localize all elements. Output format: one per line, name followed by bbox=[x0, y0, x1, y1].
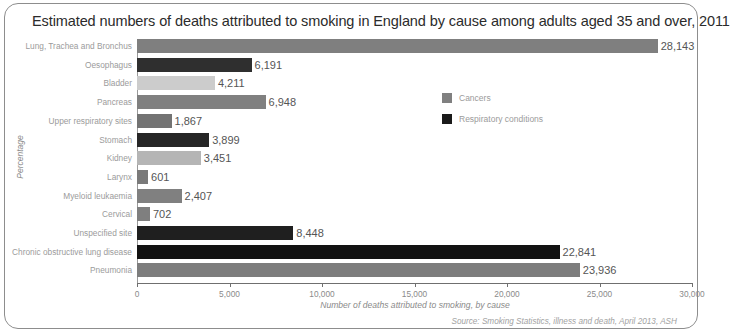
bar[interactable] bbox=[137, 226, 293, 240]
x-axis-tick bbox=[230, 283, 231, 287]
bar-value-label: 3,451 bbox=[204, 152, 232, 164]
x-axis-tick bbox=[600, 283, 601, 287]
bar-value-label: 6,191 bbox=[255, 59, 283, 71]
x-axis-tick-label: 25,000 bbox=[587, 289, 612, 299]
bar-row: Oesophagus6,191 bbox=[137, 58, 692, 72]
bar-category-label: Chronic obstructive lung disease bbox=[12, 247, 132, 257]
bar-row: Pneumonia23,936 bbox=[137, 263, 692, 277]
bar-category-label: Kidney bbox=[107, 153, 132, 163]
bar[interactable] bbox=[137, 263, 580, 277]
bar-category-label: Bladder bbox=[103, 78, 132, 88]
bar[interactable] bbox=[137, 151, 201, 165]
x-axis-tick bbox=[507, 283, 508, 287]
bar[interactable] bbox=[137, 58, 252, 72]
bar-value-label: 3,899 bbox=[212, 134, 240, 146]
x-axis-tick bbox=[137, 283, 138, 287]
bar[interactable] bbox=[137, 245, 560, 259]
x-axis-tick-label: 30,000 bbox=[679, 289, 704, 299]
bar-row: Kidney3,451 bbox=[137, 151, 692, 165]
bar-row: Unspecified site8,448 bbox=[137, 226, 692, 240]
bar-value-label: 1,867 bbox=[175, 115, 203, 127]
bar-value-label: 4,211 bbox=[218, 77, 245, 89]
bar[interactable] bbox=[137, 170, 148, 184]
bar-value-label: 28,143 bbox=[661, 40, 695, 52]
bar-value-label: 2,407 bbox=[185, 190, 213, 202]
bar-row: Cervical702 bbox=[137, 207, 692, 221]
x-axis-tick-label: 10,000 bbox=[309, 289, 334, 299]
bar[interactable] bbox=[137, 189, 182, 203]
bar-row: Larynx601 bbox=[137, 170, 692, 184]
bar[interactable] bbox=[137, 114, 172, 128]
y-axis-title: Percentage bbox=[15, 122, 25, 192]
bar-row: Chronic obstructive lung disease22,841 bbox=[137, 245, 692, 259]
bar-row: Upper respiratory sites1,867 bbox=[137, 114, 692, 128]
bar-category-label: Lung, Trachea and Bronchus bbox=[25, 41, 132, 51]
bar-category-label: Oesophagus bbox=[85, 60, 132, 70]
bar-row: Pancreas6,948 bbox=[137, 95, 692, 109]
bar-row: Bladder4,211 bbox=[137, 76, 692, 90]
bar-value-label: 23,936 bbox=[583, 264, 617, 276]
x-axis-title: Number of deaths attributed to smoking, … bbox=[137, 300, 693, 310]
bar-category-label: Upper respiratory sites bbox=[49, 116, 132, 126]
x-axis-tick-label: 5,000 bbox=[219, 289, 240, 299]
bar[interactable] bbox=[137, 39, 658, 53]
bar-category-label: Pancreas bbox=[97, 97, 132, 107]
bar[interactable] bbox=[137, 76, 215, 90]
bar-row: Lung, Trachea and Bronchus28,143 bbox=[137, 39, 692, 53]
x-axis-tick bbox=[692, 283, 693, 287]
x-axis-tick bbox=[415, 283, 416, 287]
bar-value-label: 22,841 bbox=[563, 246, 597, 258]
bar-row: Myeloid leukaemia2,407 bbox=[137, 189, 692, 203]
bar[interactable] bbox=[137, 95, 266, 109]
bar[interactable] bbox=[137, 207, 150, 221]
chart-title: Estimated numbers of deaths attributed t… bbox=[32, 13, 730, 29]
bar-value-label: 601 bbox=[151, 171, 169, 183]
bar-category-label: Unspecified site bbox=[73, 228, 132, 238]
x-axis-tick-label: 20,000 bbox=[494, 289, 519, 299]
x-axis-tick-label: 15,000 bbox=[402, 289, 427, 299]
bar-category-label: Larynx bbox=[107, 172, 132, 182]
chart-frame: Estimated numbers of deaths attributed t… bbox=[4, 3, 698, 329]
bar-category-label: Pneumonia bbox=[90, 265, 132, 275]
bar-category-label: Stomach bbox=[99, 135, 132, 145]
x-axis-tick-label: 0 bbox=[135, 289, 140, 299]
bar-value-label: 6,948 bbox=[269, 96, 297, 108]
bar-value-label: 702 bbox=[153, 208, 171, 220]
bar-row: Stomach3,899 bbox=[137, 133, 692, 147]
bar-category-label: Myeloid leukaemia bbox=[63, 191, 132, 201]
source-note: Source: Smoking Statistics, illness and … bbox=[451, 317, 677, 326]
bar[interactable] bbox=[137, 133, 209, 147]
x-axis-tick bbox=[322, 283, 323, 287]
bar-category-label: Cervical bbox=[102, 209, 132, 219]
bar-value-label: 8,448 bbox=[296, 227, 324, 239]
